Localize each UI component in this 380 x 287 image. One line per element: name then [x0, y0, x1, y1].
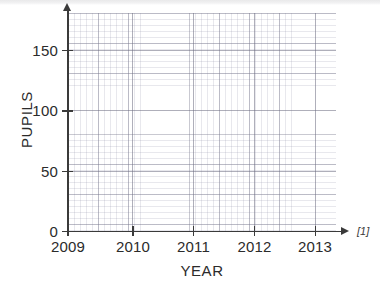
- y-tick-100: [62, 110, 73, 111]
- pupils-vs-year-blank-graph: 150 100 50 0 2009 2010 2011 2012 2013 PU…: [0, 0, 380, 287]
- marks-annotation: [1]: [357, 226, 369, 237]
- gridline-vertical-2011: [193, 13, 194, 231]
- x-tick-label-2010: 2010: [116, 239, 150, 254]
- gridline-horizontal-100: [68, 110, 336, 111]
- x-tick-2010: [132, 226, 133, 236]
- x-tick-2009: [67, 226, 68, 236]
- y-axis-title: PUPILS: [19, 75, 34, 165]
- y-axis-arrow-icon: [63, 3, 71, 11]
- gridline-vertical-2010: [132, 13, 133, 231]
- x-axis-title: YEAR: [68, 263, 336, 278]
- x-tick-2013: [315, 226, 316, 236]
- y-tick-label-100: 100: [32, 103, 58, 118]
- x-tick-2012: [254, 226, 255, 236]
- plot-area-grid: [68, 13, 336, 231]
- x-tick-label-2013: 2013: [298, 239, 332, 254]
- gridline-horizontal-50: [68, 171, 336, 172]
- gridline-vertical-2013: [315, 13, 316, 231]
- y-tick-label-0: 0: [49, 224, 58, 239]
- x-tick-label-2009: 2009: [51, 239, 85, 254]
- y-tick-50: [62, 171, 73, 172]
- x-axis-line: [67, 231, 342, 233]
- gridline-vertical-2012: [254, 13, 255, 231]
- x-tick-2011: [193, 226, 194, 236]
- x-axis-arrow-icon: [341, 227, 349, 235]
- y-axis-line: [67, 8, 69, 231]
- x-tick-label-2012: 2012: [237, 239, 271, 254]
- y-tick-label-50: 50: [41, 164, 58, 179]
- y-tick-150: [62, 50, 73, 51]
- gridline-horizontal-150: [68, 50, 336, 51]
- y-tick-label-150: 150: [32, 43, 58, 58]
- x-tick-label-2011: 2011: [177, 239, 210, 254]
